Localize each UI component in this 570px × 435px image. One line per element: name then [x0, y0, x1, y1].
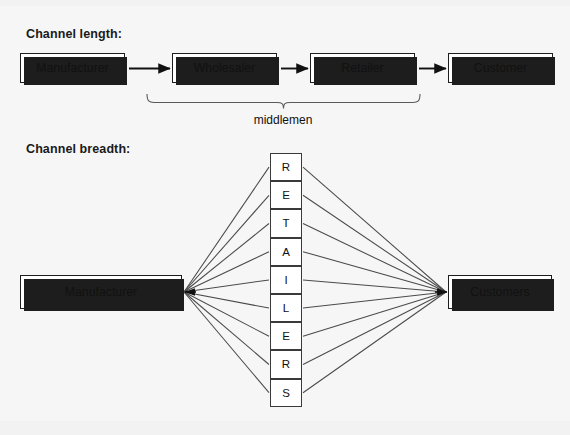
middlemen-brace [147, 94, 420, 109]
breadth-links-right [303, 167, 446, 393]
breadth-links-left [184, 167, 269, 393]
middlemen-label: middlemen [254, 113, 313, 127]
section-title-channel-length: Channel length: [26, 27, 122, 41]
retailer-cell-1[interactable]: R [270, 153, 302, 181]
node-manufacturer-breadth[interactable]: Manufacturer [20, 275, 182, 309]
node-manufacturer-length[interactable]: Manufacturer [20, 53, 125, 83]
section-title-channel-breadth: Channel breadth: [26, 142, 130, 156]
diagram-canvas: Channel length: Channel breadth: Manufac… [0, 0, 570, 435]
retailer-cell-2[interactable]: E [270, 181, 302, 209]
retailer-cell-9[interactable]: S [270, 379, 302, 407]
middlemen-label-wrap: middlemen [0, 113, 570, 127]
node-customers[interactable]: Customers [448, 275, 552, 309]
retailer-cell-3[interactable]: T [270, 209, 302, 237]
retailer-cell-6[interactable]: L [270, 294, 302, 322]
retailer-cell-5[interactable]: I [270, 266, 302, 294]
retailer-cell-4[interactable]: A [270, 238, 302, 266]
node-wholesaler[interactable]: Wholesaler [172, 53, 277, 83]
retailer-cell-8[interactable]: R [270, 350, 302, 378]
retailer-cell-7[interactable]: E [270, 322, 302, 350]
node-retailer[interactable]: Retailer [310, 53, 415, 83]
node-customer[interactable]: Customer [448, 53, 553, 83]
